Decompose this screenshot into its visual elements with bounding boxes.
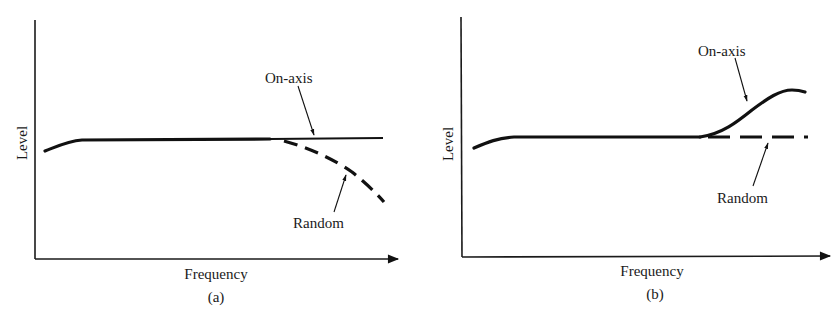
on-axis-pointer bbox=[735, 58, 747, 101]
random-label: Random bbox=[293, 215, 344, 231]
on-axis-pointer bbox=[298, 86, 314, 135]
on-axis-curve bbox=[270, 138, 383, 139]
on-axis-label: On-axis bbox=[265, 70, 313, 86]
random-curve bbox=[284, 141, 384, 202]
y-axis bbox=[461, 17, 462, 257]
panel-caption: (b) bbox=[646, 286, 664, 303]
figure-canvas: On-axis Random Frequency (a) Level On-ax… bbox=[0, 0, 837, 319]
panel-caption: (a) bbox=[208, 289, 225, 306]
x-axis-label: Frequency bbox=[620, 263, 684, 279]
on-axis-label: On-axis bbox=[698, 43, 746, 59]
random-pointer bbox=[753, 143, 768, 186]
panel-a: On-axis Random Frequency (a) Level bbox=[14, 20, 398, 306]
random-label: Random bbox=[717, 190, 768, 206]
x-axis-arrow bbox=[462, 256, 830, 257]
panel-b: On-axis Random Frequency (b) Level bbox=[440, 17, 830, 303]
y-axis-label: Level bbox=[14, 126, 30, 160]
on-axis-curve bbox=[700, 90, 805, 137]
shared-response-curve bbox=[474, 137, 700, 148]
y-axis-label: Level bbox=[440, 127, 456, 161]
x-axis-label: Frequency bbox=[184, 266, 248, 282]
random-pointer bbox=[334, 175, 346, 212]
shared-response-curve bbox=[45, 139, 270, 151]
